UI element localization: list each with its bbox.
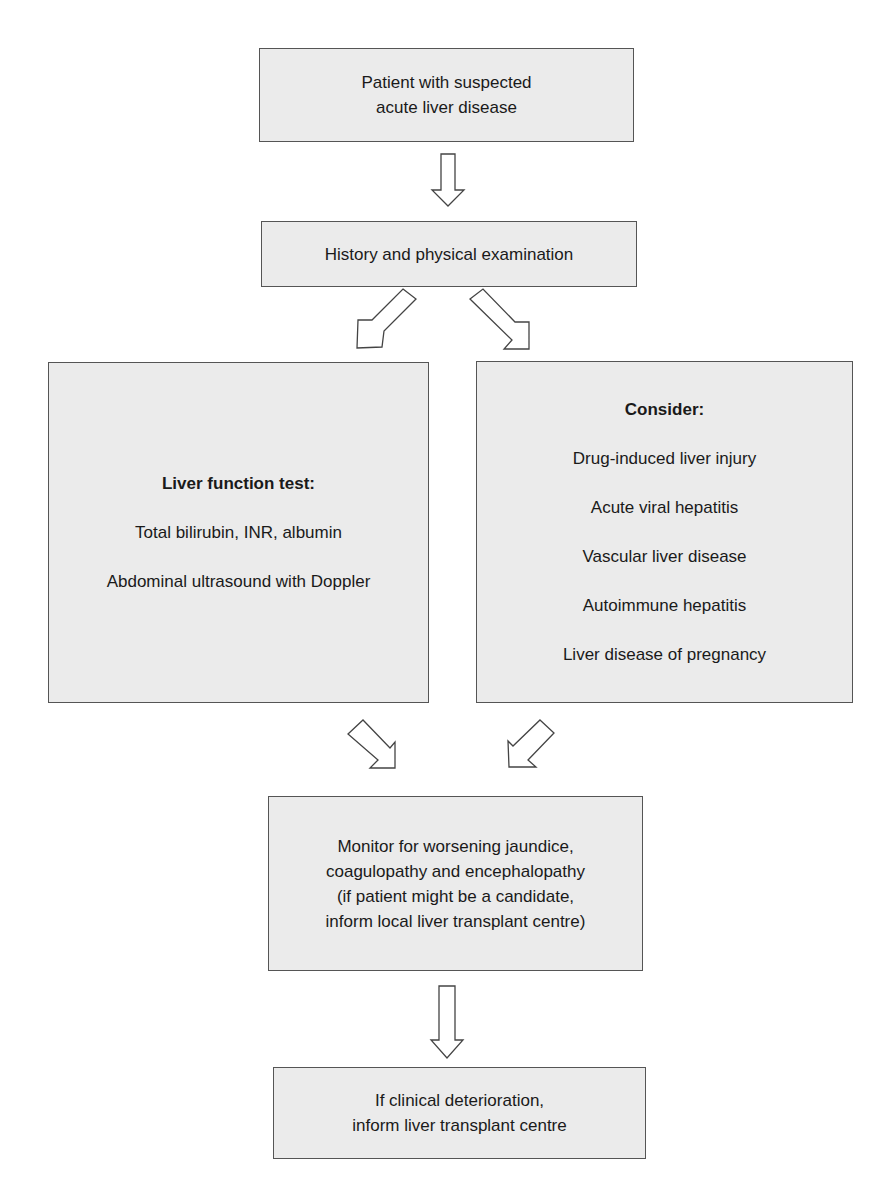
node-monitor-line: coagulopathy and encephalopathy [326,859,585,884]
node-start-line: acute liver disease [376,95,517,120]
arrow-down-right-icon [470,289,529,349]
node-consider-item: Liver disease of pregnancy [563,642,766,667]
arrow-down-icon [431,986,463,1058]
node-monitor: Monitor for worsening jaundice, coagulop… [268,796,643,971]
arrow-down-icon [432,154,464,206]
node-final-line: If clinical deterioration, [375,1088,544,1113]
arrow-down-left-icon [508,720,554,767]
node-lft-item: Abdominal ultrasound with Doppler [107,569,371,594]
node-history-line: History and physical examination [325,242,574,267]
node-monitor-line: (if patient might be a candidate, [337,884,574,909]
node-consider-item: Drug-induced liver injury [573,446,756,471]
arrow-down-left-icon [357,289,416,348]
node-history: History and physical examination [261,221,637,287]
node-lft-item: Total bilirubin, INR, albumin [135,520,342,545]
node-consider-item: Vascular liver disease [582,544,746,569]
node-final-line: inform liver transplant centre [352,1113,566,1138]
node-consider-item: Acute viral hepatitis [591,495,738,520]
arrow-down-right-icon [348,720,395,768]
node-lft-heading: Liver function test: [162,471,315,496]
node-final: If clinical deterioration, inform liver … [273,1067,646,1159]
node-start: Patient with suspected acute liver disea… [259,48,634,142]
node-consider: Consider: Drug-induced liver injury Acut… [476,361,853,703]
node-consider-item: Autoimmune hepatitis [583,593,746,618]
node-liver-function-test: Liver function test: Total bilirubin, IN… [48,362,429,703]
node-start-line: Patient with suspected [361,70,531,95]
node-consider-heading: Consider: [625,397,704,422]
node-monitor-line: Monitor for worsening jaundice, [337,834,573,859]
node-monitor-line: inform local liver transplant centre) [326,909,586,934]
